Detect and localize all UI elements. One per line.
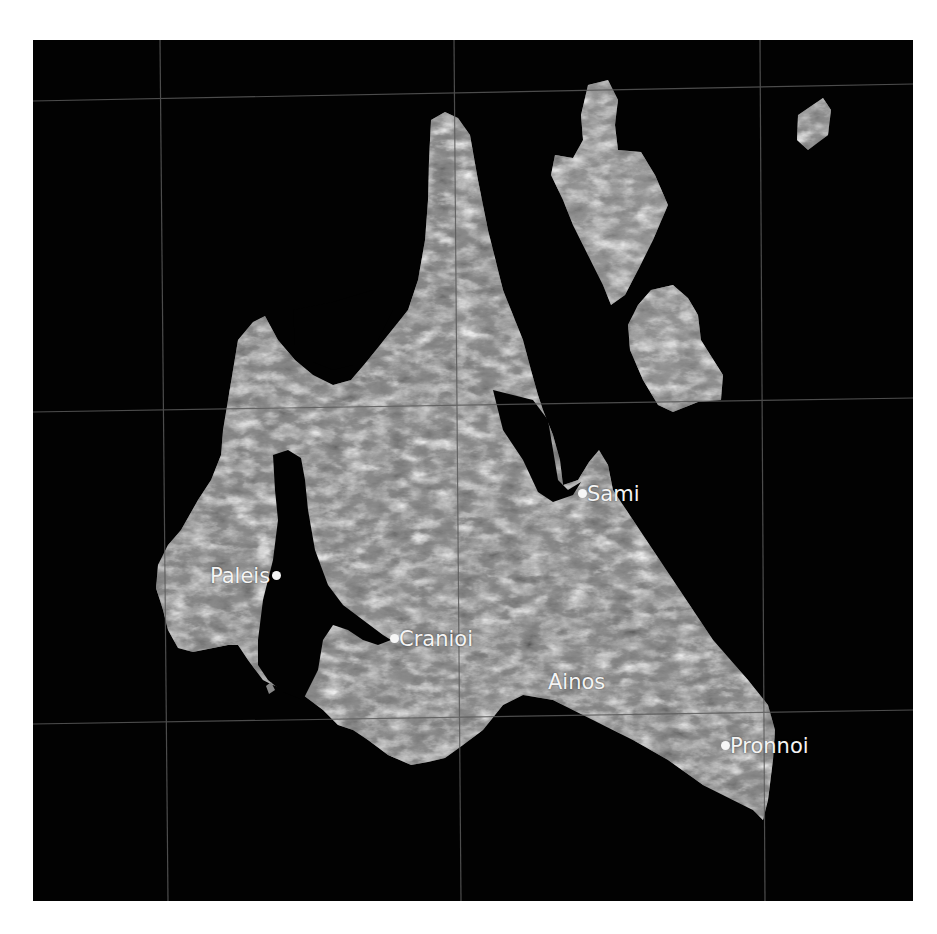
place-ainos[interactable]: Ainos — [548, 670, 605, 694]
place-name: Pronnoi — [730, 734, 809, 758]
ithaca-island — [551, 80, 723, 412]
atokos-islet — [797, 98, 831, 150]
place-name: Ainos — [548, 670, 605, 694]
place-paleis[interactable]: Paleis — [210, 564, 281, 588]
satellite-map[interactable]: Sami Paleis Cranioi Ainos Pronnoi — [33, 40, 913, 901]
location-dot-icon — [578, 489, 587, 498]
place-cranioi[interactable]: Cranioi — [390, 627, 473, 651]
grid-line-vertical — [160, 40, 168, 901]
place-name: Paleis — [210, 564, 270, 588]
location-dot-icon — [390, 634, 399, 643]
place-name: Cranioi — [399, 627, 473, 651]
place-sami[interactable]: Sami — [578, 482, 640, 506]
location-dot-icon — [272, 571, 281, 580]
place-name: Sami — [587, 482, 640, 506]
grid-line-horizontal — [33, 84, 913, 101]
map-canvas — [33, 40, 913, 901]
location-dot-icon — [721, 741, 730, 750]
place-pronnoi[interactable]: Pronnoi — [721, 734, 809, 758]
